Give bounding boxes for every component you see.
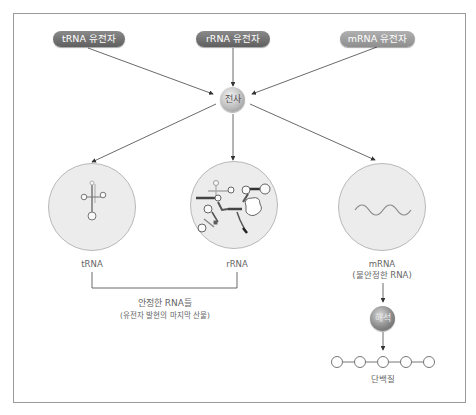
protein-chain-icon (332, 357, 435, 368)
mrna-circle (338, 163, 426, 251)
arrow-trna-gene-to-transcription (88, 48, 213, 94)
rrna-circle (190, 161, 278, 249)
protein-label: 단백질 (363, 374, 403, 385)
arrow-transcription-to-trna (92, 104, 216, 162)
arrow-mrna-gene-to-transcription (252, 47, 377, 94)
translation-node: 해석 (370, 306, 395, 331)
mrna-label: mRNA (362, 259, 402, 270)
stable-rna-subtitle: (유전자 발현의 마지막 산물) (100, 310, 230, 321)
stable-rna-title: 안정한 RNA들 (115, 298, 215, 309)
mrna-unstable-note: (불안정한 RNA) (342, 270, 422, 281)
trna-gene-label: tRNA 유전자 (53, 31, 125, 47)
transcription-node: 전사 (220, 87, 245, 112)
trna-circle (48, 163, 136, 251)
arrow-transcription-to-mrna (250, 104, 375, 160)
rrna-label: rRNA (222, 259, 252, 270)
stable-rna-bracket (92, 272, 237, 288)
trna-label: tRNA (78, 259, 106, 270)
rrna-gene-label: rRNA 유전자 (196, 31, 270, 47)
mrna-gene-label: mRNA 유전자 (340, 31, 415, 47)
